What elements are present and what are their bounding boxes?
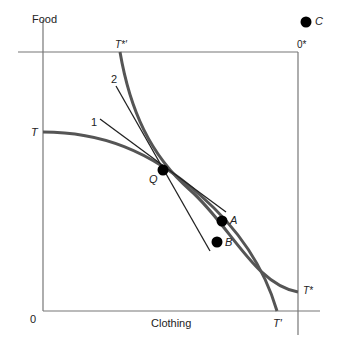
diagram-canvas <box>0 0 337 345</box>
point-a <box>217 216 228 227</box>
line-label-2: 2 <box>111 74 117 85</box>
line-label-1: 1 <box>91 117 97 128</box>
point-c <box>301 17 312 28</box>
foreign-ppf-curve <box>120 52 298 292</box>
clothing-axis-label: Clothing <box>151 318 191 329</box>
food-axis-label: Food <box>32 14 57 25</box>
point-label-a: A <box>230 215 237 226</box>
curve-label-t-star-prime: T*′ <box>115 40 127 50</box>
point-b <box>212 237 223 248</box>
curve-label-t-star: T* <box>303 286 313 296</box>
point-q <box>158 165 169 176</box>
foreign-origin-label: 0* <box>297 40 306 50</box>
origin-label: 0 <box>30 314 36 325</box>
point-label-q: Q <box>149 174 158 185</box>
point-label-c: C <box>315 16 323 27</box>
curve-label-t: T <box>31 127 38 138</box>
point-label-b: B <box>225 237 232 248</box>
curve-label-t-prime: T′ <box>273 318 282 329</box>
